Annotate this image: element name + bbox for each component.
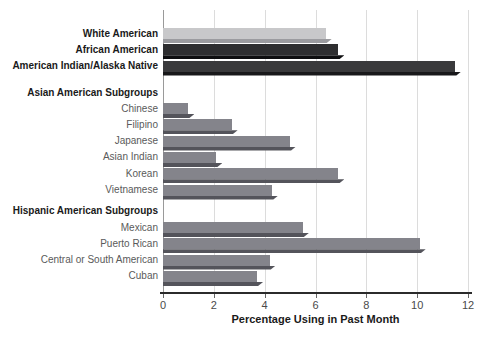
bar-label: Cuban <box>129 270 158 281</box>
bar-bevel <box>163 130 238 134</box>
bar-bevel <box>163 282 263 286</box>
bar <box>163 61 455 72</box>
bar <box>163 152 216 163</box>
bar-label: White American <box>83 28 158 39</box>
bar-bevel <box>163 39 332 43</box>
bar-label: Korean <box>126 168 158 179</box>
bar-bevel <box>163 163 222 167</box>
bar-label: Filipino <box>126 119 158 130</box>
bar-bevel <box>163 179 344 183</box>
bar <box>163 44 338 55</box>
group-header: Hispanic American Subgroups <box>13 204 158 217</box>
bar <box>163 168 338 179</box>
bar-bevel <box>163 196 278 200</box>
bar <box>163 238 420 249</box>
tick-label: 8 <box>354 299 378 311</box>
tick-mark <box>265 294 266 298</box>
tick-label: 10 <box>405 299 429 311</box>
bar-label: Puerto Rican <box>100 238 158 249</box>
bar-label: Central or South American <box>41 254 158 265</box>
tick-mark <box>316 294 317 298</box>
tick-mark <box>417 294 418 298</box>
bar-label: American Indian/Alaska Native <box>12 60 158 71</box>
bar-label: Vietnamese <box>105 184 158 195</box>
bar <box>163 222 303 233</box>
tick-label: 12 <box>456 299 480 311</box>
bar <box>163 255 270 266</box>
tick-mark <box>163 294 164 298</box>
bar-bevel <box>163 266 276 270</box>
bar-bevel <box>163 147 296 151</box>
tick-label: 6 <box>304 299 328 311</box>
bar-bevel <box>163 233 309 237</box>
bar-label: African American <box>76 44 158 55</box>
bar <box>163 103 188 114</box>
tick-label: 0 <box>151 299 175 311</box>
bar <box>163 185 272 196</box>
bar-label: Mexican <box>121 222 158 233</box>
tick-mark <box>214 294 215 298</box>
bar <box>163 136 290 147</box>
bar-bevel <box>163 249 426 253</box>
bar-bevel <box>163 55 344 59</box>
tick-label: 4 <box>253 299 277 311</box>
bar <box>163 119 232 130</box>
bar-bevel <box>163 114 194 118</box>
group-header: Asian American Subgroups <box>27 86 158 99</box>
bar-label: Chinese <box>121 103 158 114</box>
bar-label: Japanese <box>115 135 158 146</box>
tick-label: 2 <box>202 299 226 311</box>
bar-label: Asian Indian <box>103 151 158 162</box>
tick-mark <box>468 294 469 298</box>
gridline <box>468 10 469 292</box>
tick-mark <box>366 294 367 298</box>
bar-bevel <box>163 72 461 76</box>
bar <box>163 28 326 39</box>
bar-chart: Percentage Using in Past Month 024681012… <box>0 0 488 338</box>
bar <box>163 271 257 282</box>
x-axis-title: Percentage Using in Past Month <box>163 313 468 325</box>
